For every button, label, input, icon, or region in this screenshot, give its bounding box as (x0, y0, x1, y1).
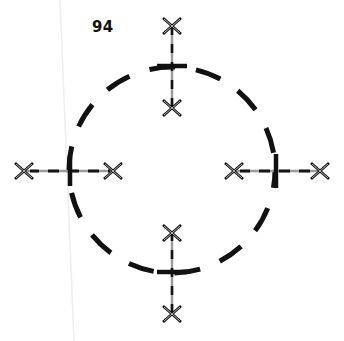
figure-canvas: 94 (0, 0, 344, 341)
technical-drawing (0, 0, 344, 341)
figure-callout-number: 94 (92, 20, 114, 35)
